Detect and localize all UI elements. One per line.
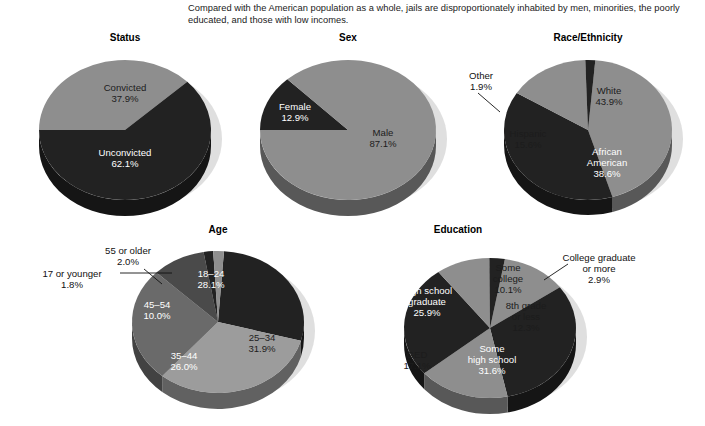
slice-label-some-college: Some college 10.1% [493,262,523,295]
slice-label-17-or-younger: 17 or younger 1.8% [42,268,101,290]
slice-label-ged: GED 17.1% [403,349,430,371]
slice-label-white: White 43.9% [595,85,622,107]
slice-label-unconvicted: Unconvicted 62.1% [99,147,152,169]
leader-line-other [470,92,530,122]
slice-label-hispanic: Hispanic 15.6% [510,128,547,150]
slice-label-female: Female 12.9% [279,101,311,123]
chart-title-sex: Sex [339,32,357,43]
chart-title-education: Education [434,224,482,235]
leader-line-college-graduate [540,262,590,288]
pie-chart-sex [225,48,475,218]
chart-title-age: Age [209,224,228,235]
slice-label-male: Male 87.1% [369,127,396,149]
slice-label-35-44: 35–44 26.0% [170,350,197,372]
slice-label-25-34: 25–34 31.9% [248,332,275,354]
pie-chart-age [110,240,340,420]
chart-title-status: Status [110,32,141,43]
figure-caption: Compared with the American population as… [188,2,700,27]
slice-label-african-american: African American 38.6% [587,146,628,179]
slice-label-high-school-graduate: High school graduate 25.9% [402,285,452,318]
slice-label-18-24: 18–24 28.1% [197,268,224,290]
slice-label-convicted: Convicted 37.9% [104,82,147,104]
leader-line-17-or-younger [120,270,184,284]
slice-label-55-or-older: 55 or older 2.0% [105,245,151,267]
pie-chart-status [0,48,250,218]
figure-pie-chart-panel: Compared with the American population as… [0,0,705,426]
chart-title-race: Race/Ethnicity [554,32,623,43]
pie-chart-race [462,52,705,218]
slice-label-8th-grade-or-less: 8th grade or less 12.3% [506,300,547,333]
slice-label-some-high-school: Some high school 31.6% [468,343,517,376]
slice-label-other: Other 1.9% [469,70,493,92]
slice-label-45-54: 45–54 10.0% [143,299,170,321]
